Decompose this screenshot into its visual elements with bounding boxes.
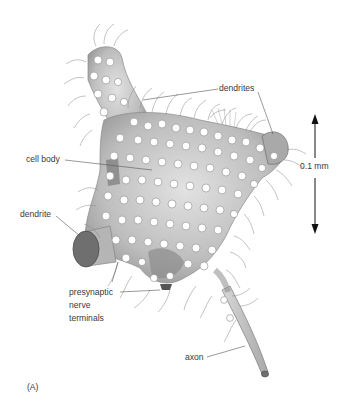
leader-dendrite [56, 216, 80, 236]
neuron-illustration [0, 0, 350, 409]
leader-presynaptic-2 [112, 262, 118, 282]
label-axon: axon [185, 352, 204, 362]
leader-dendrites-left [143, 89, 218, 100]
label-presynaptic-line-2: nerve [69, 299, 113, 312]
scale-bar [312, 114, 319, 234]
label-scale-bar: 0.1 mm [300, 161, 329, 171]
arrow-down-icon [312, 224, 319, 234]
label-cell-body: cell body [26, 154, 60, 164]
neuron-figure: dendrites cell body 0.1 mm dendrite pres… [0, 0, 350, 409]
leader-dendrites-right [258, 92, 273, 134]
arrow-up-icon [312, 114, 319, 124]
label-presynaptic-line-3: terminals [69, 312, 113, 325]
leader-presynaptic [120, 290, 160, 292]
label-dendrites: dendrites [219, 83, 254, 93]
axon-shape [215, 270, 269, 377]
label-presynaptic-nerve-terminals: presynaptic nerve terminals [69, 286, 113, 325]
leader-axon [207, 346, 245, 357]
panel-label: (A) [27, 382, 38, 392]
label-dendrite: dendrite [20, 209, 51, 219]
label-presynaptic-line-1: presynaptic [69, 286, 113, 299]
